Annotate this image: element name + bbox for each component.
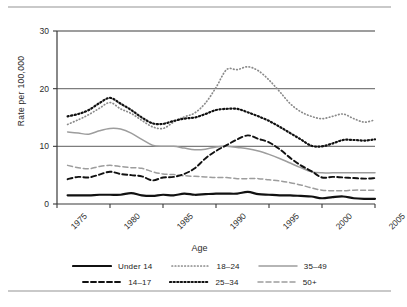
legend-label-35-49: 35–49 [304,262,327,271]
series-line-35-49 [68,128,375,173]
legend-label-under-14: Under 14 [118,262,153,271]
y-tick-label-30: 30 [27,26,49,36]
series-line-under-14 [68,192,375,199]
legend-label-50plus: 50+ [303,278,317,287]
series-line-25-34 [68,98,375,147]
legend-item-18-24[interactable]: 18–24 [171,261,240,271]
legend-swatch-35-49 [258,261,298,271]
legend-label-25-34: 25–34 [215,278,238,287]
legend-swatch-50plus [257,277,297,287]
legend-item-35-49[interactable]: 35–49 [258,261,327,271]
legend-item-25-34[interactable]: 25–34 [169,277,238,287]
legend-label-18-24: 18–24 [217,262,240,271]
legend-swatch-25-34 [169,277,209,287]
y-tick-label-20: 20 [27,84,49,94]
y-tick-label-0: 0 [27,199,49,209]
chart-legend: Under 1418–2435–4914–1725–3450+ [0,258,399,290]
legend-item-under-14[interactable]: Under 14 [72,261,153,271]
legend-label-14-17: 14–17 [128,278,151,287]
series-line-18-24 [68,67,375,129]
legend-row: 14–1725–3450+ [0,274,399,290]
legend-row: Under 1418–2435–49 [0,258,399,274]
legend-swatch-14-17 [82,277,122,287]
legend-swatch-18-24 [171,261,211,271]
legend-item-14-17[interactable]: 14–17 [82,277,151,287]
x-axis-title: Age [0,243,399,253]
legend-swatch-under-14 [72,261,112,271]
y-tick-label-10: 10 [27,141,49,151]
legend-item-50plus[interactable]: 50+ [257,277,317,287]
y-axis-label: Rate per 100,000 [16,26,26,156]
